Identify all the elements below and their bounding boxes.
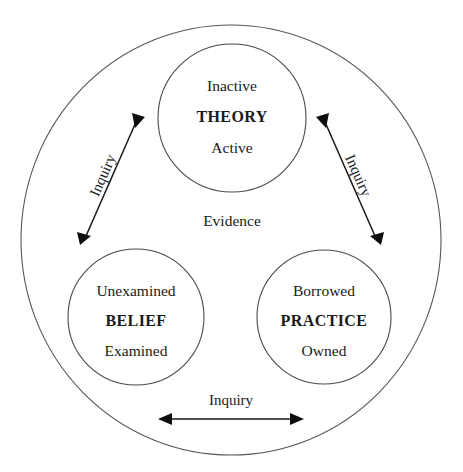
arrow-belief-practice-head-right [290,413,304,425]
arrow-theory-practice-head-lower [370,232,384,245]
theory-top-label: Inactive [207,77,257,94]
theory-belief-practice-diagram: Inactive THEORY Active Unexamined BELIEF… [0,0,463,472]
diagram-canvas: Inactive THEORY Active Unexamined BELIEF… [0,0,463,472]
practice-top-label: Borrowed [293,282,355,299]
arrow-belief-practice-head-left [158,413,172,425]
arrow-belief-theory-label: Inquiry [86,151,119,198]
arrow-theory-practice-label: Inquiry [342,152,375,199]
arrow-belief-theory: Inquiry [77,113,145,245]
practice-bottom-label: Owned [302,342,347,359]
arrow-theory-practice: Inquiry [316,113,384,245]
belief-main-label: BELIEF [105,312,166,329]
arrow-belief-practice-label: Inquiry [209,392,254,408]
theory-bottom-label: Active [211,139,252,156]
practice-main-label: PRACTICE [281,312,368,329]
arrow-belief-practice: Inquiry [158,392,304,425]
theory-main-label: THEORY [196,108,267,125]
evidence-label: Evidence [203,212,261,229]
belief-top-label: Unexamined [96,282,175,299]
belief-bottom-label: Examined [105,342,168,359]
arrow-belief-theory-head-lower [77,232,91,245]
